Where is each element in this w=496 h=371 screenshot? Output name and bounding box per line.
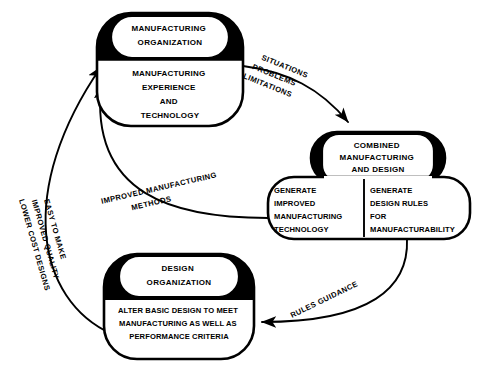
edge-label-improved-manufacturing-methods: IMPROVED MANUFACTURING METHODS <box>100 170 223 219</box>
edge-rules-guidance-path <box>262 239 407 322</box>
edge-label-rules-guidance: RULES GUIDANCE <box>289 279 359 320</box>
node-title-pill <box>111 16 229 58</box>
node-combined-manufacturing-and-design[interactable]: COMBINED MANUFACTURING AND DESIGN GENERA… <box>268 130 470 239</box>
svg-text:SITUATIONS PROBLEMS: SITUATIONS PROBLEMS LIMITATIONS <box>242 49 312 103</box>
node-manufacturing-organization[interactable]: MANUFACTURING ORGANIZATION MANUFACTURING… <box>95 13 245 126</box>
svg-text:EASY TO MAKE IMPROVED: EASY TO MAKE IMPROVED QUALITY LOWER COST… <box>17 191 75 291</box>
edge-label-easy-to-make: EASY TO MAKE IMPROVED QUALITY LOWER COST… <box>17 191 75 291</box>
node-merge-mask <box>324 176 432 182</box>
edge-label-situations-problems-limitations: SITUATIONS PROBLEMS LIMITATIONS <box>242 49 312 103</box>
svg-text:IMPROVED MANUFACTURING: IMPROVED MANUFACTURING METHODS <box>100 170 223 219</box>
svg-text:RULES GUIDANCE: RULES GUIDANCE <box>289 279 359 320</box>
node-title-pill <box>119 256 239 297</box>
flow-diagram: MANUFACTURING ORGANIZATION MANUFACTURING… <box>0 0 496 371</box>
diagram-canvas: MANUFACTURING ORGANIZATION MANUFACTURING… <box>0 0 496 371</box>
node-body: ALTER BASIC DESIGN TO MEET MANUFACTURING… <box>118 306 240 341</box>
node-design-organization[interactable]: DESIGN ORGANIZATION ALTER BASIC DESIGN T… <box>102 254 256 359</box>
